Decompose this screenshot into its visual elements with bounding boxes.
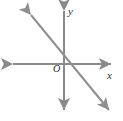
graph-canvas	[0, 0, 123, 121]
y-axis-label: y	[68, 6, 73, 17]
origin-label: O	[53, 64, 60, 74]
plotted-line	[31, 15, 109, 110]
coordinate-plane-figure: y x O	[0, 0, 123, 121]
x-axis-label: x	[107, 70, 112, 81]
